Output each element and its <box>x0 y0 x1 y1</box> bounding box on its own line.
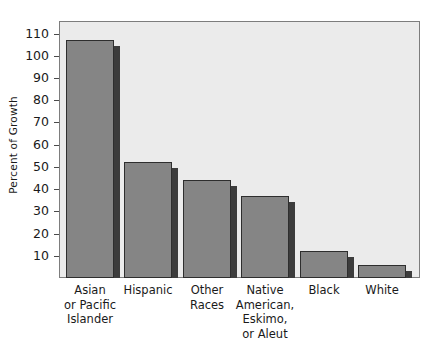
y-axis-tick-label: 50 <box>33 159 49 175</box>
bar[interactable] <box>183 180 231 278</box>
bar[interactable] <box>358 265 406 278</box>
y-axis-tick-label: 10 <box>33 248 49 264</box>
bar[interactable] <box>241 196 289 278</box>
y-axis-tick-label: 100 <box>25 48 49 64</box>
y-axis-tick-label: 80 <box>33 92 49 108</box>
y-axis-tick-label: 30 <box>33 203 49 219</box>
plot-area <box>59 21 420 278</box>
bar-chart-figure: Percent of Growth 1020304050607080901001… <box>0 0 431 361</box>
y-axis-title-text: Percent of Growth <box>7 96 19 194</box>
y-axis-tick-label: 40 <box>33 181 49 197</box>
y-axis-tick-label: 70 <box>33 114 49 130</box>
bar[interactable] <box>124 162 172 278</box>
bar[interactable] <box>300 251 348 278</box>
y-axis-tick-label: 90 <box>33 70 49 86</box>
x-axis-label: White <box>342 283 422 298</box>
bar[interactable] <box>66 40 114 278</box>
y-axis-tick-label: 20 <box>33 226 49 242</box>
y-axis-tick-label: 110 <box>25 26 49 42</box>
y-axis-tick-label: 60 <box>33 137 49 153</box>
y-axis-title: Percent of Growth <box>0 0 26 290</box>
